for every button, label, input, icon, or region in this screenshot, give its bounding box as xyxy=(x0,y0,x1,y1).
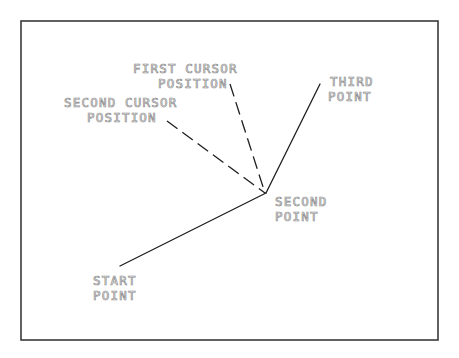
line-construction-diagram: FIRST CURSOR POSITION SECOND CURSOR POSI… xyxy=(0,0,459,358)
segment-second-to-third-point xyxy=(266,84,320,193)
label-second-point: SECOND POINT xyxy=(275,194,327,224)
label-first-cursor-line1: FIRST CURSOR xyxy=(133,61,238,76)
label-third-point-line1: THIRD xyxy=(330,74,374,89)
label-third-point-line2: POINT xyxy=(328,89,372,104)
label-first-cursor-line2: POSITION xyxy=(158,76,228,91)
label-second-cursor-position: SECOND CURSOR POSITION xyxy=(64,95,177,125)
label-start-point-line1: START xyxy=(93,273,137,288)
label-start-point: START POINT xyxy=(93,273,137,303)
label-second-cursor-line2: POSITION xyxy=(87,110,157,125)
label-first-cursor-position: FIRST CURSOR POSITION xyxy=(133,61,238,91)
segment-start-to-second-point xyxy=(120,193,266,266)
label-third-point: THIRD POINT xyxy=(328,74,374,104)
segment-second-point-to-second-cursor xyxy=(167,121,265,193)
label-second-cursor-line1: SECOND CURSOR xyxy=(64,95,177,110)
segment-second-point-to-first-cursor xyxy=(230,84,265,193)
label-second-point-line2: POINT xyxy=(275,209,319,224)
label-start-point-line2: POINT xyxy=(93,288,137,303)
label-second-point-line1: SECOND xyxy=(275,194,327,209)
